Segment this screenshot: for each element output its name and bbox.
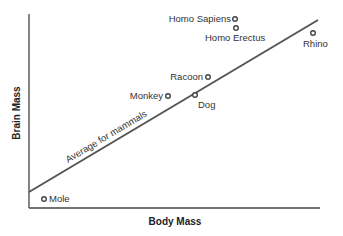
svg-text:Racoon: Racoon [170,71,203,82]
data-point-homo-erectus: Homo Erectus [205,26,265,43]
svg-text:Homo Erectus: Homo Erectus [205,32,265,43]
x-axis-title: Body Mass [149,216,202,227]
data-point-racoon: Racoon [170,71,210,82]
data-point-mole: Mole [42,193,70,204]
svg-text:Homo Sapiens: Homo Sapiens [169,13,232,24]
data-point-rhino: Rhino [303,31,328,49]
trendline [29,20,318,192]
y-axis-title: Brain Mass [11,86,22,140]
data-point-dog: Dog [193,93,216,110]
scatter-chart: Average for mammals Homo Sapiens Homo Er… [0,0,343,236]
data-point-monkey: Monkey [130,90,171,101]
data-point-homo-sapiens: Homo Sapiens [169,13,238,24]
trendline-label: Average for mammals [63,108,149,165]
svg-text:Mole: Mole [49,193,70,204]
svg-text:Rhino: Rhino [303,38,328,49]
svg-text:Monkey: Monkey [130,90,164,101]
svg-text:Dog: Dog [198,99,215,110]
